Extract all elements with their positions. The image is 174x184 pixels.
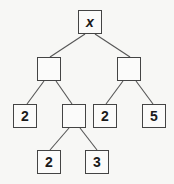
edge-right-rightright [136, 81, 153, 104]
tree-node-left-left: 2 [13, 104, 37, 128]
edge-root-right [95, 34, 130, 57]
tree-diagram: x 2 2 5 2 3 [0, 0, 174, 184]
edge-left-leftright [56, 81, 72, 104]
tree-node-right-right: 5 [142, 104, 166, 128]
tree-node-left [37, 57, 61, 81]
tree-node-root: x [78, 10, 102, 34]
tree-node-left-right-left: 2 [37, 150, 61, 174]
edge-right-rightleft [106, 81, 123, 104]
tree-node-right-left: 2 [93, 104, 117, 128]
edge-left-leftleft [27, 81, 44, 104]
edge-leftright-leftrightleft [50, 128, 69, 150]
tree-node-right [117, 57, 141, 81]
tree-node-left-right [62, 104, 86, 128]
edge-leftright-leftrightright [80, 128, 97, 150]
tree-node-left-right-right: 3 [85, 150, 109, 174]
edge-root-left [50, 34, 85, 57]
